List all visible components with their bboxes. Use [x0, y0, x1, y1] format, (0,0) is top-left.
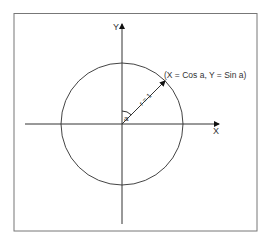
point-label: (X = Cos a, Y = Sin a)	[164, 70, 247, 80]
y-axis-label: Y	[113, 22, 119, 32]
radius-label: r = 1	[138, 92, 153, 107]
unit-circle-diagram: Y X a r = 1 (X = Cos a, Y = Sin a)	[0, 0, 269, 241]
x-axis-label: X	[213, 126, 219, 136]
frame-border	[14, 14, 257, 232]
angle-label: a	[124, 114, 129, 123]
